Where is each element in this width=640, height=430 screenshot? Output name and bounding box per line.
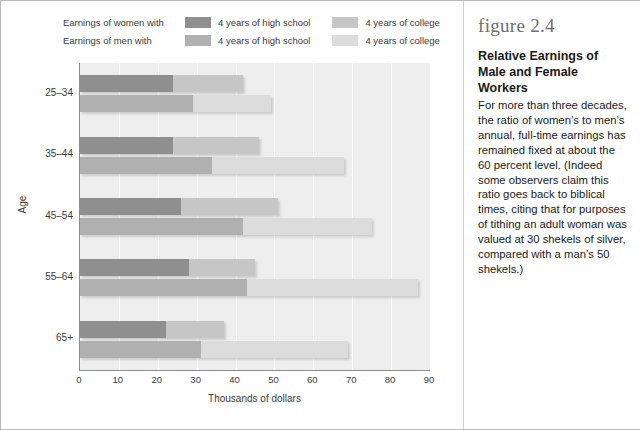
bar-segment-men-high-school <box>80 95 193 112</box>
stacked-bar-women-55-64 <box>80 259 255 276</box>
bar-segment-women-high-school <box>80 259 189 276</box>
bar-wrapper <box>80 341 430 358</box>
bar-wrapper <box>80 259 430 276</box>
y-tick-25-34: 25–34 <box>3 87 73 98</box>
bar-segment-men-high-school <box>80 218 243 235</box>
stacked-bar-men-55-64 <box>80 279 418 296</box>
legend-row-men: Earnings of men with 4 years of high sch… <box>63 33 459 48</box>
bar-segment-men-college <box>193 95 271 112</box>
bar-wrapper <box>80 95 430 112</box>
legend-swatch-women-college <box>332 17 358 28</box>
bar-segment-women-high-school <box>80 321 166 338</box>
bar-segment-women-college <box>189 259 255 276</box>
bar-segment-women-college <box>173 75 243 92</box>
x-tick-50: 50 <box>258 374 288 385</box>
bar-wrapper <box>80 157 430 174</box>
stacked-bar-men-65+ <box>80 341 348 358</box>
bar-segment-men-college <box>243 218 371 235</box>
bar-segment-men-high-school <box>80 279 247 296</box>
x-tick-80: 80 <box>375 374 405 385</box>
y-tick-65+: 65+ <box>3 332 73 343</box>
x-tick-0: 0 <box>64 374 94 385</box>
legend-swatch-women-high-school <box>185 17 211 28</box>
stacked-bar-women-45-54 <box>80 198 278 215</box>
stacked-bar-men-25-34 <box>80 95 271 112</box>
legend-row-women: Earnings of women with 4 years of high s… <box>63 15 459 30</box>
bar-segment-women-high-school <box>80 75 173 92</box>
x-tick-40: 40 <box>220 374 250 385</box>
figure-number: figure 2.4 <box>478 15 628 37</box>
chart-legend: Earnings of women with 4 years of high s… <box>63 15 459 55</box>
bar-segment-men-college <box>212 157 344 174</box>
bar-wrapper <box>80 137 430 154</box>
x-tick-90: 90 <box>414 374 444 385</box>
stacked-bar-men-45-54 <box>80 218 372 235</box>
legend-men-high-school-label: 4 years of high school <box>218 35 310 46</box>
figure-container: Earnings of women with 4 years of high s… <box>0 0 640 430</box>
bar-segment-women-high-school <box>80 198 181 215</box>
legend-swatch-men-high-school <box>185 35 211 46</box>
bar-segment-men-college <box>201 341 349 358</box>
bar-wrapper <box>80 75 430 92</box>
stacked-bar-women-35-44 <box>80 137 259 154</box>
bar-wrapper <box>80 218 430 235</box>
gridline-90 <box>430 63 431 370</box>
bar-wrapper <box>80 198 430 215</box>
x-tick-30: 30 <box>181 374 211 385</box>
chart-panel: Earnings of women with 4 years of high s… <box>1 1 463 429</box>
bar-wrapper <box>80 321 430 338</box>
caption-panel: figure 2.4 Relative Earnings of Male and… <box>463 1 640 429</box>
plot-area <box>79 63 430 370</box>
legend-women-lead: Earnings of women with <box>63 17 185 28</box>
y-tick-45-54: 45–54 <box>3 210 73 221</box>
bar-segment-women-college <box>173 137 259 154</box>
bar-segment-women-high-school <box>80 137 173 154</box>
bar-segment-women-college <box>181 198 278 215</box>
x-axis-line <box>79 370 430 371</box>
legend-women-college-label: 4 years of college <box>365 17 439 28</box>
caption-body: For more than three decades, the ratio o… <box>478 98 628 277</box>
x-tick-60: 60 <box>297 374 327 385</box>
bar-segment-men-college <box>247 279 418 296</box>
x-axis-title: Thousands of dollars <box>79 393 430 404</box>
bar-segment-men-high-school <box>80 157 212 174</box>
x-tick-20: 20 <box>142 374 172 385</box>
y-axis-title: Age <box>17 175 28 235</box>
stacked-bar-women-65+ <box>80 321 224 338</box>
x-tick-10: 10 <box>103 374 133 385</box>
legend-women-high-school-label: 4 years of high school <box>218 17 310 28</box>
legend-swatch-men-college <box>332 35 358 46</box>
stacked-bar-men-35-44 <box>80 157 344 174</box>
legend-men-lead: Earnings of men with <box>63 35 185 46</box>
bar-wrapper <box>80 279 430 296</box>
y-tick-55-64: 55–64 <box>3 271 73 282</box>
caption-title: Relative Earnings of Male and Female Wor… <box>478 48 628 96</box>
x-tick-70: 70 <box>336 374 366 385</box>
legend-men-college-label: 4 years of college <box>365 35 439 46</box>
bar-segment-men-high-school <box>80 341 201 358</box>
y-axis-tick-labels: 25–3435–4445–5455–6465+ <box>1 63 73 370</box>
stacked-bar-women-25-34 <box>80 75 243 92</box>
y-tick-35-44: 35–44 <box>3 148 73 159</box>
bar-segment-women-college <box>166 321 224 338</box>
